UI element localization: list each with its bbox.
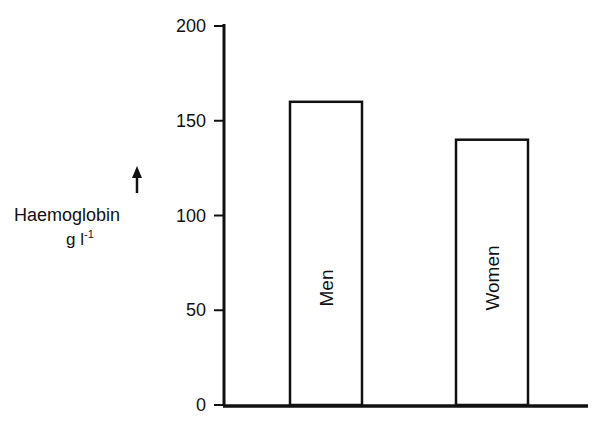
y-tick-label: 100	[176, 206, 206, 226]
y-axis-unit-exponent: -1	[84, 228, 94, 240]
y-tick-label: 150	[176, 111, 206, 131]
bar-men	[290, 102, 362, 405]
bar-label: Women	[482, 245, 503, 310]
y-axis-unit: g l-1	[66, 228, 94, 250]
y-tick-label: 0	[196, 395, 206, 415]
y-axis-ticks: 050100150200	[176, 16, 224, 415]
y-tick-label: 200	[176, 16, 206, 36]
bars: MenWomen	[290, 102, 528, 405]
up-arrow-icon	[132, 166, 142, 193]
y-axis-label: Haemoglobin	[14, 205, 120, 226]
y-tick-label: 50	[186, 300, 206, 320]
y-axis-unit-text: g l	[66, 230, 84, 249]
bar-label: Men	[316, 270, 337, 307]
